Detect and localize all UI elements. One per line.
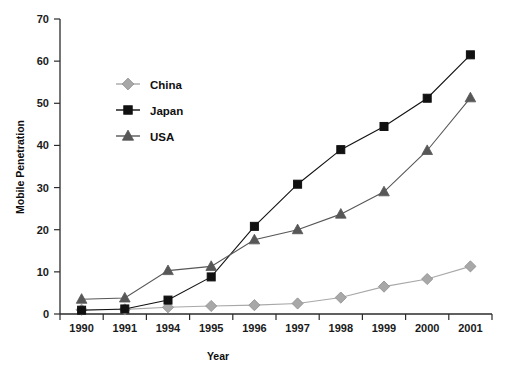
x-axis: 1990199119941995199619971998199920002001 bbox=[60, 314, 492, 334]
data-point-square-marker bbox=[250, 222, 258, 230]
series-usa bbox=[76, 92, 475, 303]
x-tick-label: 1994 bbox=[156, 322, 181, 334]
mobile-penetration-line-chart: 010203040506070 199019911994199519961997… bbox=[0, 0, 508, 368]
x-tick-label: 1991 bbox=[113, 322, 137, 334]
series-line-usa bbox=[82, 98, 471, 299]
series-japan bbox=[78, 51, 475, 314]
legend-label-japan: Japan bbox=[150, 105, 183, 117]
data-point-diamond-marker bbox=[422, 273, 433, 284]
x-tick-label: 1996 bbox=[242, 322, 266, 334]
y-axis-title: Mobile Penetration bbox=[14, 120, 26, 214]
x-axis-title: Year bbox=[207, 350, 229, 362]
legend-item-usa[interactable]: USA bbox=[116, 130, 174, 142]
data-point-square-marker bbox=[124, 106, 132, 114]
data-point-diamond-marker bbox=[378, 281, 389, 292]
y-tick-label: 70 bbox=[37, 13, 49, 25]
data-point-diamond-marker bbox=[206, 300, 217, 311]
y-tick-label: 40 bbox=[37, 139, 49, 151]
x-tick-label: 1999 bbox=[372, 322, 396, 334]
data-point-square-marker bbox=[337, 146, 345, 154]
data-point-diamond-marker bbox=[465, 261, 476, 272]
data-point-triangle-marker bbox=[465, 92, 476, 102]
data-point-diamond-marker bbox=[122, 78, 134, 90]
y-tick-label: 50 bbox=[37, 97, 49, 109]
legend-item-japan[interactable]: Japan bbox=[116, 105, 183, 117]
data-point-square-marker bbox=[423, 94, 431, 102]
y-tick-label: 30 bbox=[37, 182, 49, 194]
data-point-diamond-marker bbox=[292, 298, 303, 309]
data-point-square-marker bbox=[164, 296, 172, 304]
data-point-square-marker bbox=[207, 273, 215, 281]
data-point-square-marker bbox=[466, 51, 474, 59]
data-point-square-marker bbox=[380, 122, 388, 130]
x-tick-label: 1995 bbox=[199, 322, 223, 334]
data-point-triangle-marker bbox=[119, 292, 130, 302]
y-tick-label: 20 bbox=[37, 224, 49, 236]
y-tick-label: 60 bbox=[37, 55, 49, 67]
y-axis: 010203040506070 bbox=[37, 13, 60, 320]
legend-item-china[interactable]: China bbox=[116, 78, 183, 90]
legend-label-usa: USA bbox=[150, 131, 174, 143]
x-tick-label: 2000 bbox=[415, 322, 439, 334]
data-point-square-marker bbox=[78, 306, 86, 314]
series-container bbox=[76, 51, 476, 316]
data-point-triangle-marker bbox=[335, 209, 346, 219]
x-tick-label: 2001 bbox=[458, 322, 482, 334]
data-point-triangle-marker bbox=[206, 261, 217, 271]
chart-canvas: 010203040506070 199019911994199519961997… bbox=[0, 0, 508, 368]
data-point-diamond-marker bbox=[335, 292, 346, 303]
data-point-triangle-marker bbox=[122, 130, 133, 140]
x-tick-label: 1998 bbox=[329, 322, 353, 334]
chart-legend: ChinaJapanUSA bbox=[116, 78, 183, 142]
y-tick-label: 10 bbox=[37, 266, 49, 278]
y-tick-label: 0 bbox=[43, 308, 49, 320]
data-point-square-marker bbox=[294, 180, 302, 188]
x-tick-label: 1997 bbox=[285, 322, 309, 334]
x-tick-label: 1990 bbox=[69, 322, 93, 334]
data-point-triangle-marker bbox=[76, 294, 87, 304]
series-line-japan bbox=[82, 55, 471, 310]
legend-label-china: China bbox=[150, 79, 183, 91]
data-point-diamond-marker bbox=[249, 300, 260, 311]
data-point-square-marker bbox=[121, 305, 129, 313]
